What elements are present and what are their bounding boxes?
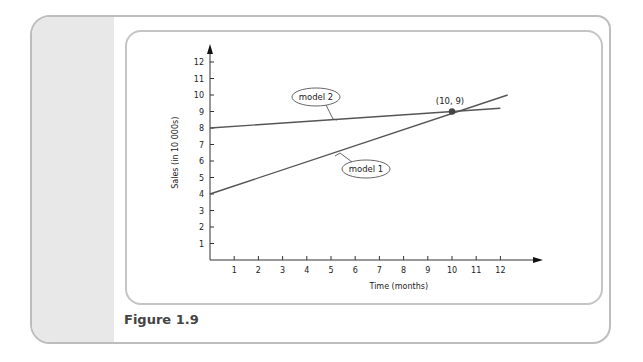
series-line-model-2 — [210, 108, 500, 128]
intersection-label: (10, 9) — [436, 96, 464, 106]
x-tick-label: 8 — [401, 266, 406, 275]
y-tick-label: 10 — [194, 91, 204, 100]
x-tick-label: 6 — [353, 266, 358, 275]
callout-label-model-1: model 1 — [349, 164, 384, 174]
y-tick-label: 7 — [199, 141, 204, 150]
chart-series — [210, 95, 508, 194]
x-tick-label: 4 — [304, 266, 309, 275]
y-tick-label: 12 — [194, 58, 204, 67]
callout-label-model-2: model 2 — [299, 92, 334, 102]
chart-annotations: (10, 9)model 2model 1 — [292, 88, 464, 178]
x-tick-label: 2 — [256, 266, 261, 275]
y-tick-label: 4 — [199, 190, 204, 199]
x-axis-arrow-icon — [533, 257, 543, 263]
y-tick-label: 1 — [199, 240, 204, 249]
x-tick-label: 3 — [280, 266, 285, 275]
x-tick-label: 10 — [447, 266, 457, 275]
intersection-point — [449, 108, 455, 114]
y-tick-label: 5 — [199, 174, 204, 183]
series-line-model-1 — [210, 95, 508, 194]
x-tick-label: 7 — [377, 266, 382, 275]
y-axis-title: Sales (in 10 000s) — [171, 117, 180, 189]
y-tick-label: 9 — [199, 108, 204, 117]
y-tick-label: 6 — [199, 157, 204, 166]
x-tick-label: 11 — [471, 266, 481, 275]
x-axis-title: Time (months) — [369, 282, 429, 291]
y-tick-label: 2 — [199, 223, 204, 232]
x-tick-label: 5 — [328, 266, 333, 275]
line-chart: 123456789101112123456789101112Time (mont… — [0, 0, 643, 362]
x-tick-label: 1 — [232, 266, 237, 275]
x-tick-label: 9 — [425, 266, 430, 275]
y-axis-arrow-icon — [207, 44, 213, 54]
y-tick-label: 8 — [199, 124, 204, 133]
y-tick-label: 3 — [199, 207, 204, 216]
x-tick-label: 12 — [495, 266, 505, 275]
y-tick-label: 11 — [194, 75, 204, 84]
